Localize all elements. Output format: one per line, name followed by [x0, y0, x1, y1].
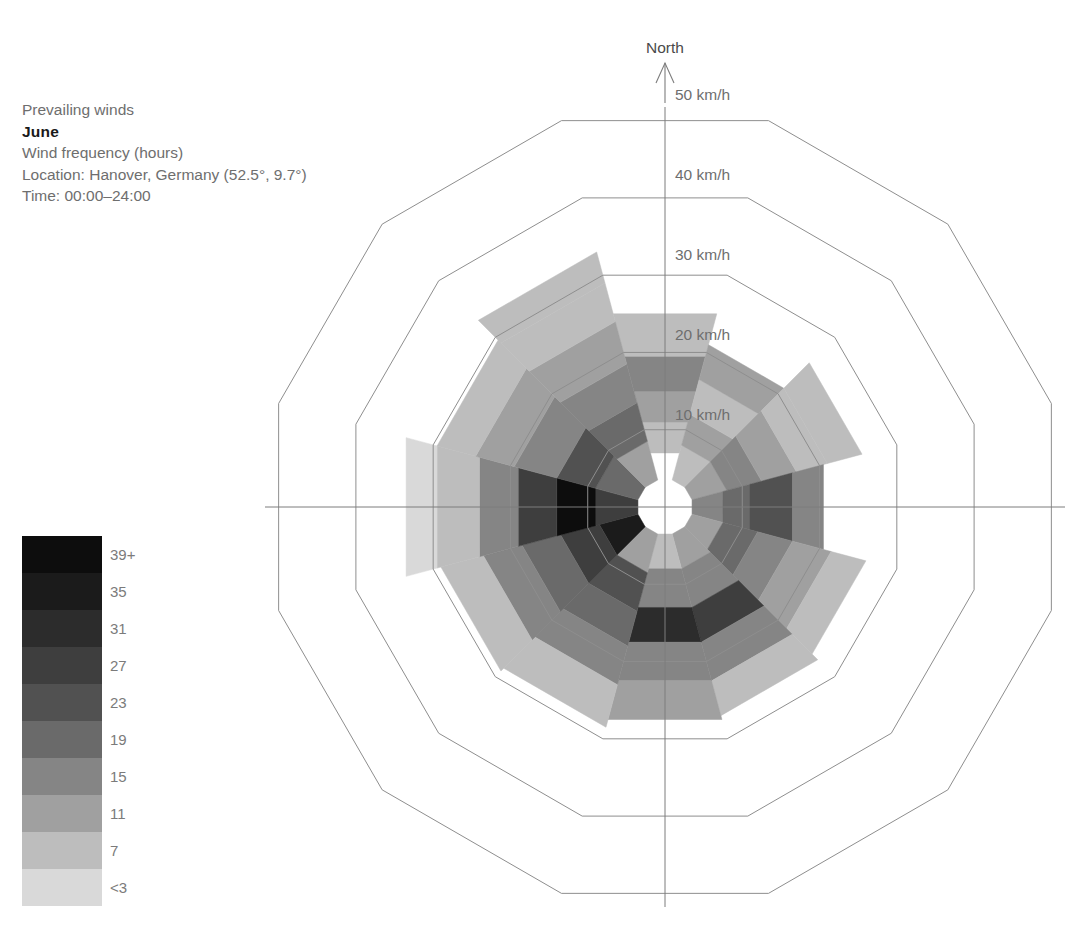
rose-sectors	[406, 252, 866, 727]
radial-tick-label: 20 km/h	[675, 326, 730, 343]
radial-tick-label: 50 km/h	[675, 86, 730, 103]
radial-tick-label: 10 km/h	[675, 406, 730, 423]
wind-rose-chart: North 10 km/h20 km/h30 km/h40 km/h50 km/…	[0, 0, 1092, 933]
radial-tick-label: 40 km/h	[675, 166, 730, 183]
north-label: North	[646, 39, 684, 56]
rose-axes	[265, 107, 1065, 907]
wind-rose-svg: North 10 km/h20 km/h30 km/h40 km/h50 km/…	[0, 0, 1092, 933]
radial-tick-label: 30 km/h	[675, 246, 730, 263]
